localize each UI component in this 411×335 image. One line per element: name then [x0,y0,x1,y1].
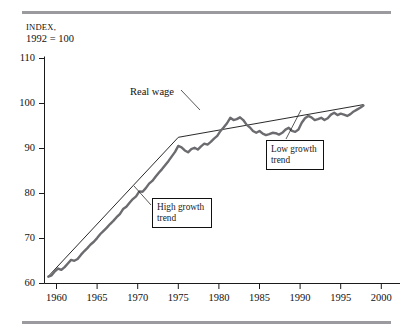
y-axis-ticks [39,59,45,284]
y-axis-caption-line1: Index, [26,22,56,32]
annotation-real-wage-label: Real wage [130,86,174,97]
annotation-low-growth-line1: Low growth [271,144,319,155]
y-axis-caption-line2: 1992 = 100 [26,33,74,44]
y-tick-label-90: 90 [11,142,35,153]
x-axis-ticks [57,284,382,290]
real-wage-leader-line [181,90,200,110]
y-tick-label-60: 60 [11,277,35,288]
x-tick-label-1965: 1965 [77,292,117,303]
x-tick-label-2000: 2000 [361,292,401,303]
y-tick-label-100: 100 [11,97,35,108]
real-wage-series [48,106,363,277]
x-tick-label-1960: 1960 [37,292,77,303]
chart-plot [0,0,411,335]
x-tick-label-1990: 1990 [280,292,320,303]
x-tick-label-1985: 1985 [240,292,280,303]
y-tick-label-80: 80 [11,187,35,198]
annotation-high-growth-line2: trend [157,213,207,224]
x-tick-label-1995: 1995 [321,292,361,303]
annotation-low-growth-callout: Low growth trend [266,140,324,170]
x-tick-label-1980: 1980 [199,292,239,303]
annotation-high-growth-callout: High growth trend [152,198,212,228]
y-tick-label-110: 110 [11,52,35,63]
annotation-high-growth-line1: High growth [157,202,207,213]
figure-container: Index, 1992 = 100 110 100 90 80 70 60 19… [0,0,411,335]
x-tick-label-1975: 1975 [158,292,198,303]
annotation-low-growth-line2: trend [271,155,319,166]
y-tick-label-70: 70 [11,232,35,243]
x-tick-label-1970: 1970 [118,292,158,303]
low-growth-leader-line [286,110,301,139]
